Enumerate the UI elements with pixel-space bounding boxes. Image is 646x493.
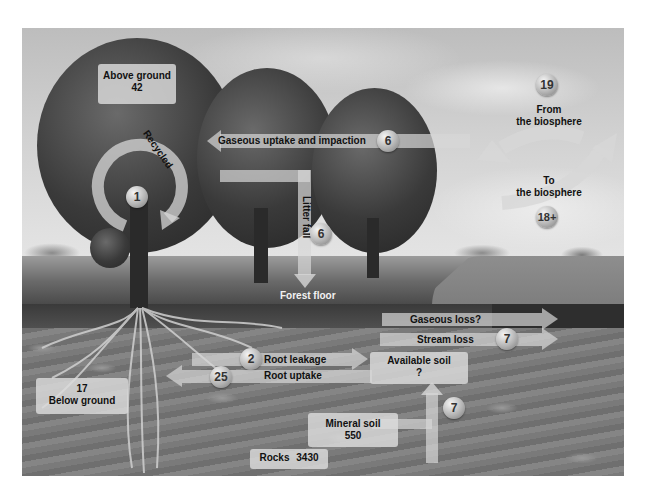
rocks-pool: Rocks 3430 — [250, 449, 328, 469]
mineral-soil-pool: Mineral soil 550 — [308, 413, 398, 447]
available-soil-label: Available soil — [374, 355, 464, 367]
below-ground-value: 17 — [40, 383, 124, 395]
root-uptake-arrowhead-icon — [166, 365, 182, 387]
stream-loss-label: Stream loss — [417, 334, 474, 346]
rocks-label: Rocks — [259, 452, 289, 463]
above-ground-label: Above ground — [102, 70, 172, 82]
from-biosphere-value-badge: 19 — [536, 74, 558, 96]
gaseous-uptake-value-badge: 6 — [377, 130, 399, 152]
above-ground-value: 42 — [102, 82, 172, 94]
weathering-arrowhead-icon — [421, 382, 443, 395]
forest-floor-label: Forest floor — [280, 290, 336, 302]
above-ground-pool: Above ground 42 — [98, 64, 176, 104]
mineral-soil-value: 550 — [312, 430, 394, 442]
to-biosphere-value-badge: 18+ — [536, 206, 558, 228]
root-uptake-value-badge: 25 — [210, 366, 232, 388]
to-biosphere-label: To the biosphere — [494, 175, 604, 199]
recycled-value-badge: 1 — [126, 186, 148, 208]
stream-loss-arrowhead-icon — [542, 328, 558, 350]
gaseous-loss-arrowhead-icon — [542, 308, 558, 330]
below-ground-pool: 17 Below ground — [36, 378, 128, 414]
from-biosphere-label: From the biosphere — [494, 104, 604, 128]
mineral-soil-label: Mineral soil — [312, 418, 394, 430]
gaseous-uptake-label: Gaseous uptake and impaction — [218, 135, 366, 147]
root-leakage-label: Root leakage — [264, 354, 326, 366]
litter-fall-value-badge: 6 — [310, 223, 332, 245]
root-leakage-arrowhead-icon — [352, 348, 368, 370]
below-ground-label: Below ground — [40, 395, 124, 407]
rocks-value: 3430 — [296, 452, 318, 463]
forest-nutrient-cycle-diagram: Recycled 1 Above ground 42 Gaseous uptak… — [22, 28, 624, 476]
available-soil-value: ? — [374, 367, 464, 379]
litter-fall-arrowhead-icon — [294, 274, 316, 288]
litter-fall-arrow-horizontal — [220, 170, 310, 182]
root-leakage-value-badge: 2 — [240, 348, 262, 370]
weathering-value-badge: 7 — [443, 397, 465, 419]
gaseous-loss-label: Gaseous loss? — [410, 314, 481, 326]
biosphere-exchange-arrows-icon — [462, 118, 622, 218]
available-soil-pool: Available soil ? — [370, 352, 468, 384]
stream-loss-value-badge: 7 — [496, 328, 518, 350]
root-uptake-label: Root uptake — [264, 370, 322, 382]
